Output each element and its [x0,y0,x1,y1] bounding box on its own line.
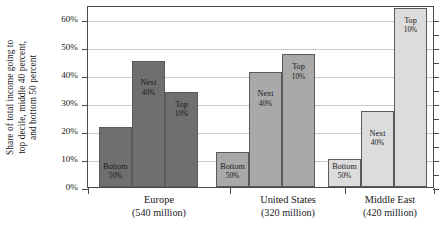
bar-label-line-1: Bottom [103,162,128,171]
y-axis-title: Share of total income going to top decil… [0,0,46,195]
x-axis-group-label: Europe(540 million) [89,193,229,219]
bar-label-line-1: Next [258,89,274,98]
bar-label: Next40% [258,89,274,109]
bar[interactable]: Next40% [361,111,394,187]
y-axis-title-line-3: and bottom 50 percent [29,40,41,155]
y-axis-tick-right [433,35,439,36]
x-axis-group-population: (420 million) [320,206,445,219]
bar-label: Top10% [175,100,189,120]
bar-label: Top10% [404,16,418,36]
y-axis-tick-label: 50% [61,43,78,52]
gridline [88,49,433,50]
y-axis-tick-right [433,119,439,120]
y-axis-tick-label: 30% [61,99,78,108]
y-axis-tick-label: 10% [61,155,78,164]
y-axis-tick-right [433,133,439,134]
bar-label-line-1: Top [404,16,417,25]
x-axis-group-population: (540 million) [89,206,229,219]
bar[interactable]: Top10% [165,92,198,187]
y-axis-tick [82,133,88,134]
y-axis-tick-right [433,63,439,64]
x-axis-group-name: Europe [144,194,174,205]
bar[interactable]: Bottom50% [328,159,361,187]
bar-label-line-1: Top [292,62,305,71]
y-axis-tick-label: 20% [61,127,78,136]
y-axis-tick-right [433,175,439,176]
y-axis-tick-right [433,21,439,22]
y-axis-tick [82,49,88,50]
bar[interactable]: Bottom50% [99,127,132,187]
y-axis-tick-right [433,91,439,92]
bar[interactable]: Next40% [132,61,165,187]
bar-label-line-2: 50% [103,171,128,181]
y-axis-title-line-2: top decile, middle 40 percent, [17,40,29,155]
bar-label-line-1: Next [141,78,157,87]
y-axis-tick-right [433,49,439,50]
x-axis-group-name: United States [260,194,316,205]
bar-label-line-1: Next [370,129,386,138]
bar-label: Top10% [292,62,306,82]
bar-label-line-2: 10% [404,25,418,35]
bar-label-line-2: 10% [175,109,189,119]
y-axis-tick-right [433,147,439,148]
y-axis-tick [82,21,88,22]
y-axis-tick-right [433,77,439,78]
bar-label: Bottom50% [332,162,357,182]
y-axis-tick [82,77,88,78]
bar-label: Next40% [141,78,157,98]
bar[interactable]: Next40% [249,72,282,187]
bar-label-line-1: Bottom [332,162,357,171]
y-axis-title-line-1: Share of total income going to [6,40,18,155]
y-axis-tick-right [433,105,439,106]
bar-label-line-2: 40% [370,138,386,148]
x-axis-group-label: Middle East(420 million) [320,193,445,219]
y-axis-tick-label: 0% [66,183,78,192]
bar-label-line-2: 50% [332,171,357,181]
bar-label-line-2: 50% [220,171,245,181]
bar-label-line-2: 10% [292,72,306,82]
plot-area: Bottom50%Next40%Top10%Bottom50%Next40%To… [87,6,434,188]
y-axis-tick-right [433,161,439,162]
bar[interactable]: Top10% [282,54,315,187]
x-axis-group-name: Middle East [365,194,416,205]
bar[interactable]: Top10% [394,8,427,187]
bar-label: Bottom50% [103,162,128,182]
bar-label-line-2: 40% [258,99,274,109]
gridline [88,21,433,22]
bar-label-line-2: 40% [141,88,157,98]
bar-label: Bottom50% [220,162,245,182]
y-axis-tick-label: 60% [61,15,78,24]
bar-label: Next40% [370,129,386,149]
bar-label-line-1: Top [175,100,188,109]
y-axis-tick [82,105,88,106]
y-axis-tick-labels: 0%10%20%30%40%50%60% [46,0,82,195]
bar-label-line-1: Bottom [220,162,245,171]
bar[interactable]: Bottom50% [216,152,249,187]
y-axis-tick [82,161,88,162]
y-axis-tick-label: 40% [61,71,78,80]
chart-container: Share of total income going to top decil… [0,0,445,233]
